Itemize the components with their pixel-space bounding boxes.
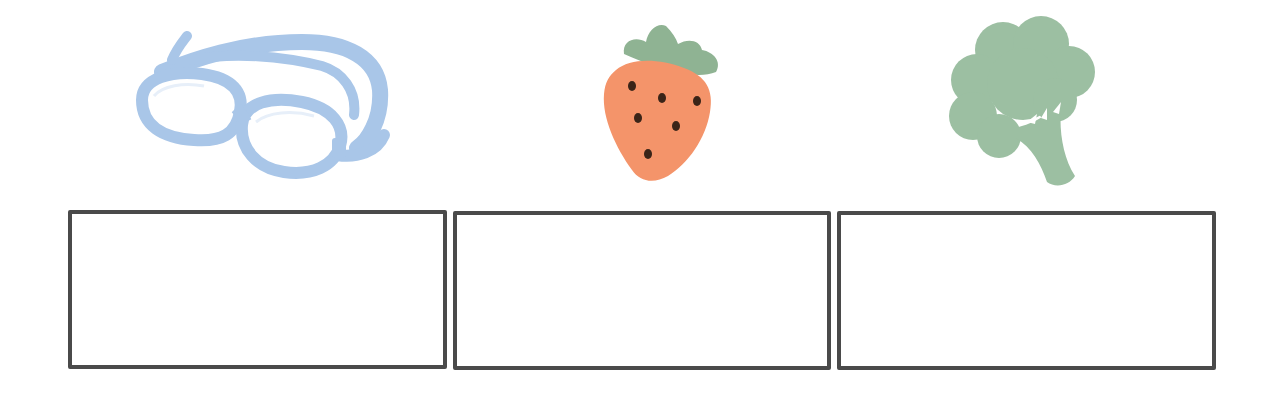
answer-text xyxy=(841,215,1212,366)
goggles-icon xyxy=(132,30,394,185)
answer-text xyxy=(457,215,827,366)
answer-box-strawberry[interactable] xyxy=(453,211,831,370)
answer-box-goggles[interactable] xyxy=(68,210,447,369)
answer-box-broccoli[interactable] xyxy=(837,211,1216,370)
broccoli-icon xyxy=(943,10,1099,190)
answer-text xyxy=(72,214,443,365)
strawberry-icon xyxy=(596,14,732,186)
